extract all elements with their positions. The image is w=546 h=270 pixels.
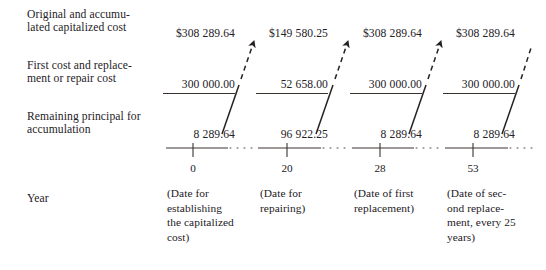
row-label-year: Year bbox=[27, 192, 107, 205]
tick-label-year-20: 20 bbox=[267, 162, 307, 174]
remaining-principal-year-20: 96 922.25 bbox=[256, 128, 328, 141]
flow-arrow-to-year-53 bbox=[428, 44, 440, 79]
tick-label-year-53: 53 bbox=[453, 162, 493, 174]
row-label-first-cost: First cost and replace- ment or repair c… bbox=[27, 59, 177, 86]
accumulated-cost-year-28: $308 289.64 bbox=[337, 27, 422, 40]
accumulated-cost-year-53: $308 289.64 bbox=[430, 27, 515, 40]
accumulated-cost-year-0: $308 289.64 bbox=[150, 27, 235, 40]
first-cost-year-0: 300 000.00 bbox=[163, 78, 235, 94]
remaining-principal-year-53: 8 289.64 bbox=[443, 128, 515, 141]
tick-label-year-0: 0 bbox=[173, 162, 213, 174]
first-cost-year-28: 300 000.00 bbox=[350, 78, 422, 94]
note-year-0: (Date for establishing the capitalized c… bbox=[167, 186, 259, 244]
note-year-20: (Date for repairing) bbox=[260, 186, 352, 215]
remaining-principal-year-28: 8 289.64 bbox=[350, 128, 422, 141]
timeline-ticks bbox=[193, 143, 473, 157]
note-year-28: (Date of first replacement) bbox=[354, 186, 446, 215]
first-cost-year-53: 300 000.00 bbox=[443, 78, 515, 94]
flow-arrow-to-year-28 bbox=[335, 44, 347, 79]
accumulation-flow-arrows bbox=[241, 44, 531, 79]
note-year-53: (Date of sec- ond replace- ment, every 2… bbox=[447, 186, 542, 244]
remaining-principal-year-0: 8 289.64 bbox=[163, 128, 235, 141]
flow-arrow-trailing bbox=[521, 48, 531, 79]
flow-arrow-to-year-20 bbox=[241, 44, 253, 79]
tick-label-year-28: 28 bbox=[360, 162, 400, 174]
first-cost-year-20: 52 658.00 bbox=[256, 78, 328, 94]
capitalized-cost-diagram: Original and accumu- lated capitalized c… bbox=[0, 0, 546, 270]
accumulated-cost-year-20: $149 580.25 bbox=[243, 27, 328, 40]
